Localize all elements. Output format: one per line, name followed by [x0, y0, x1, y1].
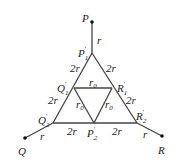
edge-label-r-r2: r — [143, 128, 148, 140]
label-r: R — [157, 144, 165, 156]
edge-label-q-q2: r — [40, 130, 45, 142]
edge-label-r1-r2: 2r — [126, 94, 137, 106]
edge-label-p-p1: r — [97, 34, 102, 46]
edge-label-p1-r1: 2r — [106, 62, 117, 74]
label-p: P — [81, 12, 89, 24]
edge-label-q1-q2: 2r — [48, 94, 59, 106]
label-p2-prime: P2′ — [86, 125, 98, 142]
label-q1-prime: Q1′ — [57, 80, 68, 97]
label-q: Q — [18, 145, 26, 157]
node-p-dot — [90, 20, 94, 24]
edge-label-p2-r2: 2r — [112, 125, 123, 137]
label-p1-prime: P1′ — [77, 45, 88, 62]
edge-label-p1-q1: 2r — [70, 62, 81, 74]
edge-label-q2-p2: 2r — [67, 125, 78, 137]
edge-label-q1-r1: r0 — [89, 76, 97, 90]
edge-r-r2 — [137, 123, 162, 136]
edge-label-r1-p2: r0 — [105, 98, 113, 112]
node-q-dot — [23, 136, 27, 140]
label-q2-prime: Q2′ — [38, 112, 50, 129]
node-r-dot — [160, 134, 164, 138]
edge-label-q1-p2: r0 — [76, 98, 84, 112]
network-diagram: P Q R P1′ Q1′ R1′ Q2′ P2′ R2′ r 2r 2r r0… — [0, 0, 176, 162]
